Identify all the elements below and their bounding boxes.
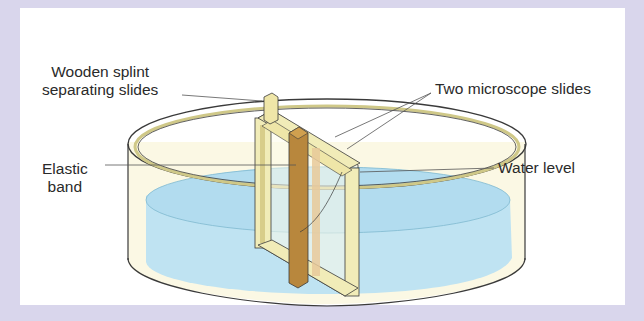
- label-line: Elastic: [42, 160, 88, 178]
- label-line: band: [42, 178, 88, 196]
- label-water-level: Water level: [498, 159, 575, 177]
- label-elastic-band: Elastic band: [42, 160, 88, 196]
- label-wooden-splint: Wooden splint separating slides: [42, 63, 158, 99]
- elastic-band: [289, 127, 308, 288]
- label-microscope-slides: Two microscope slides: [435, 80, 591, 98]
- wooden-splint: [264, 93, 278, 124]
- label-line: Wooden splint: [42, 63, 158, 81]
- label-line: separating slides: [42, 81, 158, 99]
